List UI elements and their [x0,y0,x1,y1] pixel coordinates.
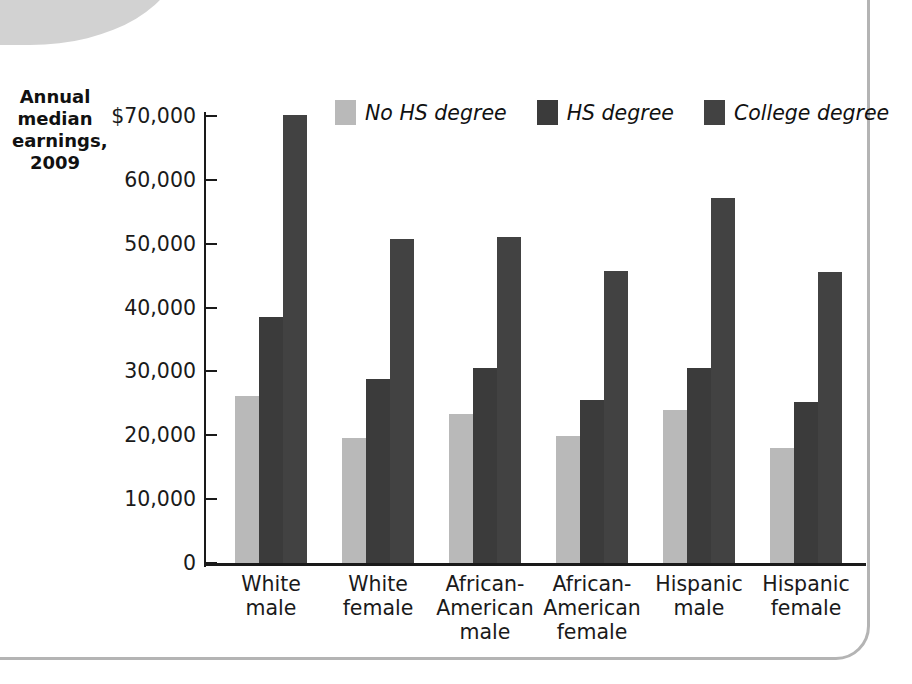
x-axis-category-label-line: African- [425,572,545,596]
x-axis-category-label-line: American [425,596,545,620]
bar [342,438,366,563]
y-axis-tick-label: 10,000 [124,489,196,510]
bar [711,198,735,563]
bar [366,379,390,563]
y-axis-tick-label: 20,000 [124,425,196,446]
bar-chart: $70,00060,00050,00040,00030,00020,00010,… [0,0,912,684]
x-axis-line [204,563,866,566]
figure-page: Annual median earnings, 2009 No HS degre… [0,0,912,684]
bar [390,239,414,563]
bar-group [235,116,307,563]
x-axis-category-label-line: African- [532,572,652,596]
x-axis-category-label: Hispanicfemale [746,572,866,620]
plot-area [204,116,862,563]
y-axis-tick-label: 50,000 [124,234,196,255]
x-axis-category-label-line: White [318,572,438,596]
x-axis-category-label: Whitemale [211,572,331,620]
x-axis-category-label-line: male [211,596,331,620]
x-axis-category-label: Hispanicmale [639,572,759,620]
bar-group [556,116,628,563]
bar [283,115,307,563]
bar-group [663,116,735,563]
x-axis-category-labels: WhitemaleWhitefemaleAfrican-Americanmale… [204,572,866,672]
bar [687,368,711,563]
bar [663,410,687,563]
y-axis-tick-label: 60,000 [124,170,196,191]
bar [497,237,521,563]
x-axis-category-label-line: female [532,620,652,644]
bar [794,402,818,563]
bar [449,414,473,563]
bar-group [449,116,521,563]
y-axis-tick-label: 40,000 [124,298,196,319]
y-axis-tick-label: 30,000 [124,361,196,382]
x-axis-category-label: Whitefemale [318,572,438,620]
bar-group [770,116,842,563]
x-axis-category-label-line: American [532,596,652,620]
bar-group [342,116,414,563]
y-axis-tick-label: $70,000 [111,106,196,127]
y-axis-tick-label: 0 [183,553,196,574]
x-axis-category-label-line: White [211,572,331,596]
bar [235,396,259,563]
bar [604,271,628,563]
bar [580,400,604,563]
bar [556,436,580,563]
bar [770,448,794,563]
bar [259,317,283,563]
x-axis-category-label: African-Americanmale [425,572,545,645]
x-axis-category-label-line: male [639,596,759,620]
bar [818,272,842,563]
x-axis-category-label-line: female [318,596,438,620]
y-axis-tick-labels: $70,00060,00050,00040,00030,00020,00010,… [96,0,196,684]
x-axis-category-label-line: female [746,596,866,620]
x-axis-category-label-line: Hispanic [639,572,759,596]
x-axis-category-label-line: Hispanic [746,572,866,596]
bar [473,368,497,563]
x-axis-category-label: African-Americanfemale [532,572,652,645]
x-axis-category-label-line: male [425,620,545,644]
